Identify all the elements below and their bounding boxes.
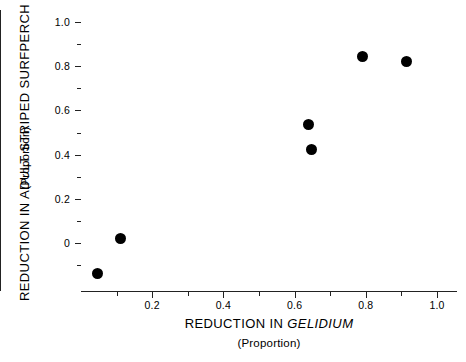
y-axis-subtitle: (Proportion) xyxy=(19,28,31,288)
data-point xyxy=(303,119,314,130)
x-axis-title-plain: REDUCTION IN xyxy=(185,316,288,331)
y-axis-tick-major xyxy=(75,66,81,67)
x-axis-tick-label: 0.8 xyxy=(346,300,386,311)
x-axis-tick-minor xyxy=(401,292,402,296)
x-axis-tick-label: 1.0 xyxy=(417,300,457,311)
y-axis-tick-label: 0.8 xyxy=(36,61,70,72)
x-axis-tick-major xyxy=(295,292,296,298)
y-axis-tick-minor xyxy=(77,133,81,134)
y-axis-tick-major xyxy=(75,243,81,244)
y-axis-tick-minor xyxy=(77,265,81,266)
data-point xyxy=(115,233,126,244)
y-axis-tick-minor xyxy=(77,88,81,89)
x-axis-tick-minor xyxy=(188,292,189,296)
y-axis-tick-major xyxy=(75,155,81,156)
x-axis-tick-label: 0.4 xyxy=(203,300,243,311)
y-axis-tick-major xyxy=(75,199,81,200)
data-point xyxy=(357,51,368,62)
x-axis-tick-minor xyxy=(259,292,260,296)
x-axis-title-italic: GELIDIUM xyxy=(287,316,353,331)
data-point xyxy=(306,144,317,155)
y-axis-tick-label: 0.6 xyxy=(36,105,70,116)
x-axis-subtitle: (Proportion) xyxy=(81,337,457,349)
y-axis-tick-major xyxy=(75,22,81,23)
x-axis-tick-label: 0.6 xyxy=(275,300,315,311)
x-axis-tick-minor xyxy=(117,292,118,296)
y-axis-tick-label: 0.4 xyxy=(36,150,70,161)
y-axis-tick-minor xyxy=(77,221,81,222)
y-axis-tick-minor xyxy=(77,44,81,45)
x-axis-title: REDUCTION IN GELIDIUM xyxy=(81,316,457,331)
x-axis-tick-major xyxy=(437,292,438,298)
data-point xyxy=(92,268,103,279)
scatter-plot-figure: 1.00.80.60.40.200.20.40.60.81.0 REDUCTIO… xyxy=(0,0,466,362)
x-axis-tick-major xyxy=(366,292,367,298)
y-axis-tick-label: 1.0 xyxy=(36,17,70,28)
x-axis-tick-major xyxy=(223,292,224,298)
y-axis-tick-label: 0.2 xyxy=(36,194,70,205)
x-axis-tick-major xyxy=(152,292,153,298)
x-axis-tick-label: 0.2 xyxy=(132,300,172,311)
y-axis-tick-minor xyxy=(77,177,81,178)
data-point xyxy=(401,56,412,67)
y-axis-tick-label: 0 xyxy=(36,238,70,249)
y-axis-tick-major xyxy=(75,110,81,111)
x-axis-tick-minor xyxy=(330,292,331,296)
y-axis-line xyxy=(0,10,1,291)
